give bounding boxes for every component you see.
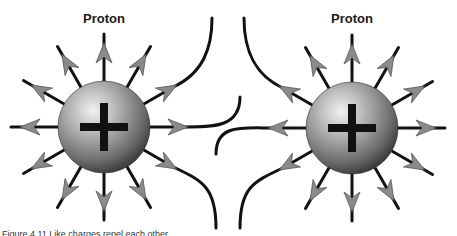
field-arrow-icon xyxy=(403,153,424,170)
plus-icon xyxy=(100,103,108,151)
field-arrow-icon xyxy=(377,55,394,76)
field-lines-svg xyxy=(0,0,457,236)
field-arrow-icon xyxy=(62,54,79,75)
field-arrow-icon xyxy=(62,178,79,199)
curved-field-line xyxy=(144,150,216,228)
field-arrow-icon xyxy=(279,153,300,170)
field-arrow-icon xyxy=(31,152,52,169)
field-arrow-icon xyxy=(310,55,327,76)
field-arrow-icon xyxy=(403,86,424,103)
field-arrow-icon xyxy=(310,179,327,200)
curved-field-line xyxy=(244,18,312,105)
curved-field-line xyxy=(144,18,212,104)
figure-caption: Figure 4.11 Like charges repel each othe… xyxy=(2,229,170,236)
like-charges-repel-diagram: Proton Proton Figure 4.11 Like charges r… xyxy=(0,0,457,236)
field-arrow-icon xyxy=(129,54,146,75)
curved-field-line xyxy=(240,151,312,228)
field-arrow-icon xyxy=(31,85,52,102)
field-arrow-icon xyxy=(155,85,176,102)
curved-field-line xyxy=(216,128,306,154)
field-arrow-icon xyxy=(377,179,394,200)
field-arrow-icon xyxy=(279,86,300,103)
field-arrow-icon xyxy=(129,178,146,199)
proton-label-left: Proton xyxy=(83,11,125,26)
plus-icon xyxy=(348,104,356,152)
proton-label-right: Proton xyxy=(331,11,373,26)
field-arrow-icon xyxy=(155,152,176,169)
